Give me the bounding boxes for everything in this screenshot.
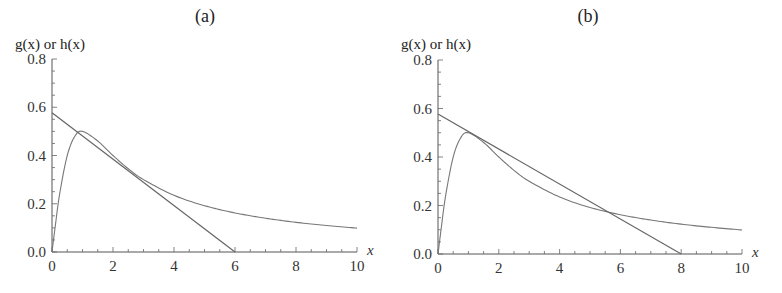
x-axis-label: x — [366, 242, 374, 258]
series-gx — [438, 133, 742, 254]
series-gx — [52, 131, 357, 252]
y-tick-label: 0.6 — [27, 99, 46, 115]
x-tick-label: 10 — [350, 258, 365, 274]
x-tick-label: 0 — [48, 258, 56, 274]
y-tick-label: 0.4 — [413, 149, 432, 165]
y-tick-label: 0.2 — [413, 198, 432, 214]
x-tick-label: 8 — [292, 258, 300, 274]
y-axis-label: g(x) or h(x) — [15, 36, 85, 53]
y-tick-label: 0.0 — [27, 244, 46, 260]
figure: (a)g(x) or h(x)0.00.20.40.60.80246810x(b… — [0, 0, 782, 293]
panel-title: (a) — [195, 6, 215, 27]
panel-a: (a)g(x) or h(x)0.00.20.40.60.80246810x — [15, 6, 374, 274]
y-tick-label: 0.8 — [27, 51, 46, 67]
series-hx — [438, 114, 681, 254]
y-tick-label: 0.4 — [27, 148, 46, 164]
series-hx — [52, 113, 235, 252]
y-tick-label: 0.8 — [413, 52, 432, 68]
y-tick-label: 0.6 — [413, 101, 432, 117]
x-tick-label: 2 — [109, 258, 117, 274]
x-tick-label: 6 — [617, 260, 625, 276]
panel-b: (b)g(x) or h(x)0.00.20.40.60.80246810x — [401, 6, 759, 276]
x-tick-label: 2 — [495, 260, 503, 276]
y-axis-label: g(x) or h(x) — [401, 36, 471, 53]
y-tick-label: 0.2 — [27, 196, 46, 212]
x-axis-label: x — [751, 244, 759, 260]
x-tick-label: 4 — [556, 260, 564, 276]
x-tick-label: 0 — [434, 260, 442, 276]
x-tick-label: 4 — [170, 258, 178, 274]
panel-title: (b) — [578, 6, 599, 27]
x-tick-label: 6 — [231, 258, 239, 274]
y-tick-label: 0.0 — [413, 246, 432, 262]
x-tick-label: 8 — [677, 260, 685, 276]
x-tick-label: 10 — [735, 260, 750, 276]
